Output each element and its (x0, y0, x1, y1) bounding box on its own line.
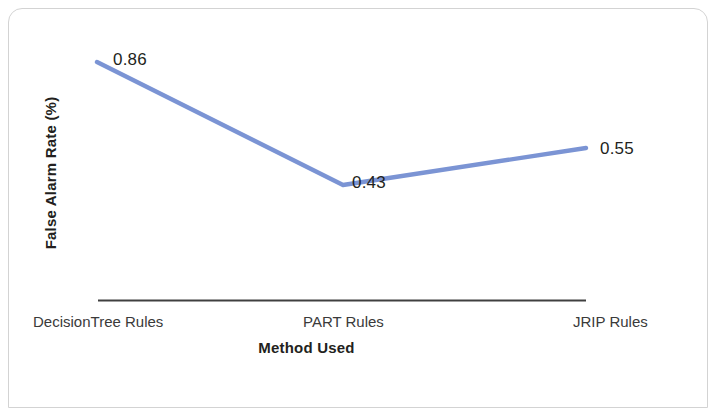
x-tick-label-part-rules: PART Rules (303, 313, 384, 330)
x-axis-title: Method Used (0, 339, 634, 356)
data-label-jrip-rules: 0.55 (600, 139, 634, 159)
x-tick-label-jrip-rules: JRIP Rules (573, 313, 648, 330)
data-label-part-rules: 0.43 (352, 173, 386, 193)
x-tick-label-decisiontree-rules: DecisionTree Rules (33, 313, 163, 330)
data-label-decisiontree-rules: 0.86 (113, 50, 147, 70)
y-axis-title: False Alarm Rate (%) (42, 97, 59, 250)
series-line-false-alarm-rate (97, 62, 586, 185)
